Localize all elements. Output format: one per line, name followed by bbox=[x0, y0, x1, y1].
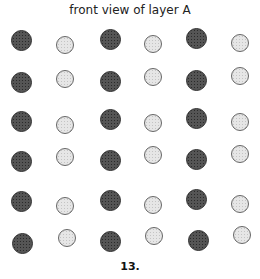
dark-atom-icon bbox=[186, 70, 207, 91]
light-atom-icon bbox=[231, 195, 249, 213]
dark-atom-icon bbox=[11, 191, 32, 212]
light-atom-icon bbox=[231, 67, 249, 85]
dark-atom-icon bbox=[188, 230, 209, 251]
light-atom-icon bbox=[144, 146, 162, 164]
light-atom-icon bbox=[145, 227, 163, 245]
light-atom-icon bbox=[58, 229, 76, 247]
dark-atom-icon bbox=[186, 108, 207, 129]
light-atom-icon bbox=[144, 114, 162, 132]
light-atom-icon bbox=[56, 197, 74, 215]
dark-atom-icon bbox=[100, 109, 121, 130]
light-atom-icon bbox=[233, 226, 251, 244]
dark-atom-icon bbox=[100, 71, 121, 92]
dark-atom-icon bbox=[100, 190, 121, 211]
dark-atom-icon bbox=[100, 150, 121, 171]
dark-atom-icon bbox=[12, 233, 33, 254]
light-atom-icon bbox=[56, 148, 74, 166]
dark-atom-icon bbox=[186, 149, 207, 170]
dark-atom-icon bbox=[11, 72, 32, 93]
light-atom-icon bbox=[231, 113, 249, 131]
diagram-title: front view of layer A bbox=[0, 3, 260, 17]
light-atom-icon bbox=[231, 34, 249, 52]
dark-atom-icon bbox=[186, 189, 207, 210]
dark-atom-icon bbox=[11, 111, 32, 132]
dark-atom-icon bbox=[100, 231, 121, 252]
dark-atom-icon bbox=[11, 30, 32, 51]
light-atom-icon bbox=[56, 116, 74, 134]
light-atom-icon bbox=[56, 36, 74, 54]
dark-atom-icon bbox=[100, 29, 121, 50]
light-atom-icon bbox=[144, 196, 162, 214]
dark-atom-icon bbox=[11, 151, 32, 172]
dark-atom-icon bbox=[186, 28, 207, 49]
light-atom-icon bbox=[56, 70, 74, 88]
light-atom-icon bbox=[144, 68, 162, 86]
figure-caption: 13. bbox=[0, 260, 260, 273]
light-atom-icon bbox=[144, 35, 162, 53]
light-atom-icon bbox=[231, 145, 249, 163]
